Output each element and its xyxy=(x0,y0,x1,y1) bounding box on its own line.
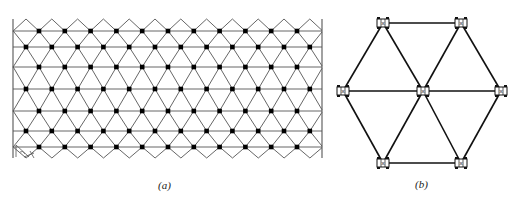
lattice-node xyxy=(256,129,261,134)
diagonal-line xyxy=(13,19,26,31)
diagonal-line xyxy=(142,31,155,47)
lattice-node xyxy=(269,145,274,150)
node-glyph: x xyxy=(422,88,425,94)
joint-node-bottom-left: x xyxy=(377,157,389,169)
lattice-node xyxy=(75,45,80,50)
lattice-node xyxy=(101,87,106,92)
diagonal-line xyxy=(284,131,297,147)
diagonal-line xyxy=(142,47,155,67)
node-glyph: x xyxy=(460,20,463,26)
diagonal-line xyxy=(65,31,78,47)
diagonal-line xyxy=(129,131,142,147)
diagonal-line xyxy=(65,131,78,147)
diagonal-line xyxy=(116,31,129,47)
strut-edge xyxy=(461,23,501,91)
diagonal-line xyxy=(155,67,168,89)
strut-edge xyxy=(423,91,461,163)
diagonal-line xyxy=(245,131,258,147)
diagonal-line xyxy=(194,67,207,89)
diagonal-line xyxy=(39,131,52,147)
lattice-node xyxy=(101,45,106,50)
joint-node-bottom-right: x xyxy=(455,157,467,169)
diagonal-line xyxy=(310,68,322,89)
lattice-node xyxy=(243,109,248,114)
diagonal-line xyxy=(13,111,26,131)
lattice-node xyxy=(295,109,300,114)
diagonal-line xyxy=(297,131,310,147)
lattice-node xyxy=(114,65,119,70)
diagonal-line xyxy=(168,47,181,67)
diagonal-line xyxy=(168,67,181,89)
lattice-node xyxy=(243,65,248,70)
lattice-node xyxy=(75,129,80,134)
joint-node-mid-right: x xyxy=(495,85,507,97)
diagonal-line xyxy=(220,31,233,47)
diagonal-line xyxy=(168,111,181,131)
diagonal-line xyxy=(181,47,194,67)
lattice-node xyxy=(24,129,29,134)
lattice-node xyxy=(127,45,132,50)
lattice-node xyxy=(166,109,171,114)
diagonal-line xyxy=(245,67,258,89)
diagonal-line xyxy=(129,67,142,89)
strut-edge xyxy=(383,91,423,163)
lattice-node xyxy=(24,45,29,50)
diagonal-line xyxy=(91,31,104,47)
diagonal-line xyxy=(142,67,155,89)
strut-edge xyxy=(343,23,383,91)
lattice-node xyxy=(295,145,300,150)
diagonal-line xyxy=(78,67,91,89)
lattice-node xyxy=(192,65,197,70)
lattice-node xyxy=(256,87,261,92)
lattice-node xyxy=(140,29,145,34)
lattice-node xyxy=(166,29,171,34)
diagonal-line xyxy=(233,111,246,131)
diagonal-line xyxy=(310,47,322,66)
lattice-node xyxy=(63,145,68,150)
diagonal-line xyxy=(207,89,220,111)
diagonal-line xyxy=(104,111,117,131)
joint-node-center: x xyxy=(417,85,429,97)
diagonal-line xyxy=(13,31,26,47)
lattice-node xyxy=(269,109,274,114)
lattice-node xyxy=(295,29,300,34)
strut-edge xyxy=(343,91,383,163)
diagonal-line xyxy=(65,89,78,111)
lattice-node xyxy=(192,29,197,34)
diagonal-line xyxy=(26,47,39,67)
diagonal-line xyxy=(26,31,39,47)
diagonal-line xyxy=(39,67,52,89)
diagonal-line xyxy=(129,111,142,131)
lattice-node xyxy=(308,129,313,134)
node-glyph: x xyxy=(342,88,345,94)
lattice-node xyxy=(204,45,209,50)
diagonal-line xyxy=(297,89,310,111)
diagonal-line xyxy=(116,47,129,67)
diagonal-line xyxy=(207,67,220,89)
lattice-node xyxy=(243,145,248,150)
diagonal-line xyxy=(91,67,104,89)
lattice-node xyxy=(179,129,184,134)
diagonal-line xyxy=(220,47,233,67)
lattice-node xyxy=(179,45,184,50)
diagonal-line xyxy=(78,47,91,67)
lattice-node xyxy=(308,45,313,50)
lattice-node xyxy=(217,65,222,70)
diagonal-line xyxy=(103,47,116,67)
diagonal-line xyxy=(26,131,39,147)
diagonal-line xyxy=(116,89,129,111)
diagonal-line xyxy=(271,131,284,147)
lattice-node xyxy=(179,87,184,92)
lattice-node xyxy=(88,29,93,34)
joint-node-mid-left: x xyxy=(337,85,349,97)
diagonal-line xyxy=(194,89,207,111)
joint-node-top-left: x xyxy=(377,17,389,29)
diagonal-line xyxy=(13,67,26,89)
diagonal-line xyxy=(129,31,142,47)
lattice-lines xyxy=(13,19,322,158)
figure: xxxxxxx (a) (b) xyxy=(0,0,519,206)
diagonal-line xyxy=(220,131,233,147)
lattice-node xyxy=(88,109,93,114)
diagonal-line xyxy=(181,111,194,131)
diagonal-line xyxy=(13,47,26,67)
